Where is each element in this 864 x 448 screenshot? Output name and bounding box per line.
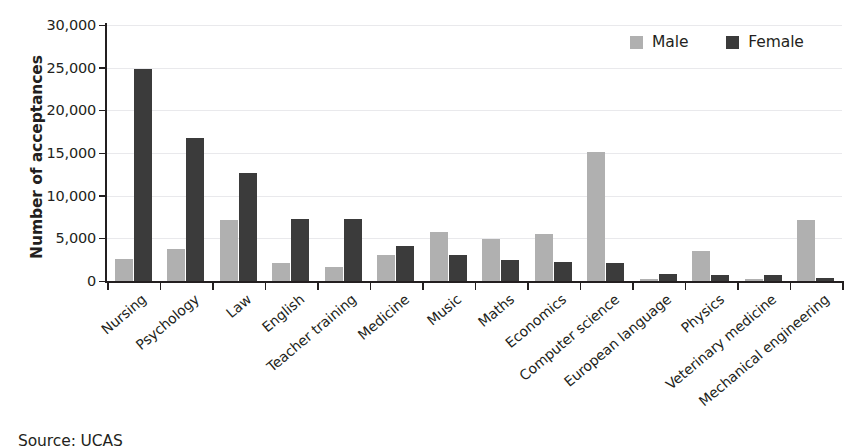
y-tick-mark bbox=[99, 195, 106, 197]
bar-male bbox=[115, 259, 133, 281]
x-tick-mark bbox=[685, 283, 687, 290]
gridline bbox=[107, 196, 842, 197]
legend-item-female[interactable]: Female bbox=[726, 33, 803, 51]
bar-female bbox=[344, 219, 362, 281]
bar-male bbox=[167, 249, 185, 281]
bar-male bbox=[482, 239, 500, 281]
bar-group bbox=[430, 25, 467, 281]
x-tick-mark bbox=[422, 283, 424, 290]
x-axis-category-label: Psychology bbox=[132, 291, 202, 353]
y-tick-label: 20,000 bbox=[6, 102, 96, 118]
gridline bbox=[107, 68, 842, 69]
x-axis-category-label: Maths bbox=[475, 291, 517, 330]
x-tick-mark bbox=[580, 283, 582, 290]
x-axis-category-label: Teacher training bbox=[264, 291, 360, 375]
gridline bbox=[107, 153, 842, 154]
legend-item-male[interactable]: Male bbox=[630, 33, 688, 51]
bar-group bbox=[797, 25, 834, 281]
y-tick-mark bbox=[99, 25, 106, 27]
x-axis-category-label: Computer science bbox=[516, 291, 622, 384]
x-axis-category-label: Physics bbox=[678, 291, 727, 336]
y-tick-mark bbox=[99, 238, 106, 240]
plot-area bbox=[107, 25, 842, 281]
bar-male bbox=[692, 251, 710, 281]
gridline bbox=[107, 238, 842, 239]
bar-chart-figure: Number of acceptances 05,00010,00015,000… bbox=[0, 0, 864, 448]
bar-female bbox=[396, 246, 414, 281]
y-tick-mark bbox=[99, 281, 106, 283]
y-tick-label: 10,000 bbox=[6, 188, 96, 204]
x-tick-mark bbox=[212, 283, 214, 290]
x-tick-mark bbox=[317, 283, 319, 290]
bar-female bbox=[816, 278, 834, 281]
x-tick-mark bbox=[265, 283, 267, 290]
bar-group bbox=[325, 25, 362, 281]
x-tick-mark bbox=[737, 283, 739, 290]
x-tick-mark bbox=[632, 283, 634, 290]
x-axis-category-label: Veterinary medicine bbox=[663, 291, 780, 393]
bar-female bbox=[554, 262, 572, 281]
bar-group bbox=[692, 25, 729, 281]
bar-male bbox=[745, 279, 763, 281]
x-tick-mark bbox=[527, 283, 529, 290]
x-axis-category-label: Medicine bbox=[354, 291, 412, 343]
bar-group bbox=[535, 25, 572, 281]
x-axis-category-label: Nursing bbox=[98, 291, 149, 338]
bar-male bbox=[220, 220, 238, 281]
bar-male bbox=[640, 279, 658, 281]
bar-male bbox=[535, 234, 553, 281]
y-tick-label: 30,000 bbox=[6, 17, 96, 33]
bar-group bbox=[587, 25, 624, 281]
gridline bbox=[107, 25, 842, 26]
y-tick-mark bbox=[99, 67, 106, 69]
x-axis-category-label: European language bbox=[561, 291, 674, 390]
bar-male bbox=[587, 152, 605, 281]
x-axis-category-label: English bbox=[259, 291, 307, 335]
x-tick-mark bbox=[790, 283, 792, 290]
bar-female bbox=[291, 219, 309, 281]
bar-group bbox=[272, 25, 309, 281]
bar-female bbox=[711, 275, 729, 281]
x-tick-mark bbox=[107, 283, 109, 290]
gridline bbox=[107, 110, 842, 111]
y-tick-label: 15,000 bbox=[6, 145, 96, 161]
bar-male bbox=[430, 232, 448, 281]
x-axis-category-label: Music bbox=[424, 291, 464, 329]
bar-female bbox=[239, 173, 257, 281]
bar-female bbox=[449, 255, 467, 281]
legend-label: Female bbox=[748, 33, 803, 51]
x-axis-category-label: Law bbox=[223, 291, 254, 321]
x-tick-mark bbox=[160, 283, 162, 290]
bar-male bbox=[377, 255, 395, 281]
legend-swatch-icon bbox=[726, 36, 739, 49]
bar-group bbox=[115, 25, 152, 281]
x-axis-category-label: Mechanical engineering bbox=[696, 291, 833, 409]
x-axis-category-label: Economics bbox=[502, 291, 569, 351]
bar-female bbox=[134, 69, 152, 281]
bar-group bbox=[482, 25, 519, 281]
x-tick-mark bbox=[842, 283, 844, 290]
x-axis-line bbox=[105, 281, 844, 283]
bar-group bbox=[745, 25, 782, 281]
bar-male bbox=[797, 220, 815, 281]
bar-female bbox=[186, 138, 204, 281]
y-tick-label: 25,000 bbox=[6, 60, 96, 76]
bar-group bbox=[220, 25, 257, 281]
source-note: Source: UCAS bbox=[18, 432, 123, 448]
bar-group bbox=[640, 25, 677, 281]
bar-male bbox=[272, 263, 290, 281]
bar-female bbox=[606, 263, 624, 281]
y-tick-mark bbox=[99, 153, 106, 155]
chart-legend: MaleFemale bbox=[630, 33, 804, 51]
bar-female bbox=[501, 260, 519, 281]
legend-swatch-icon bbox=[630, 36, 643, 49]
bar-female bbox=[764, 275, 782, 281]
bar-group bbox=[167, 25, 204, 281]
x-tick-mark bbox=[370, 283, 372, 290]
y-axis-tick-labels: 05,00010,00015,00020,00025,00030,000 bbox=[0, 0, 96, 448]
y-tick-mark bbox=[99, 110, 106, 112]
y-tick-label: 0 bbox=[6, 273, 96, 289]
y-tick-label: 5,000 bbox=[6, 230, 96, 246]
bar-female bbox=[659, 274, 677, 281]
bar-group bbox=[377, 25, 414, 281]
